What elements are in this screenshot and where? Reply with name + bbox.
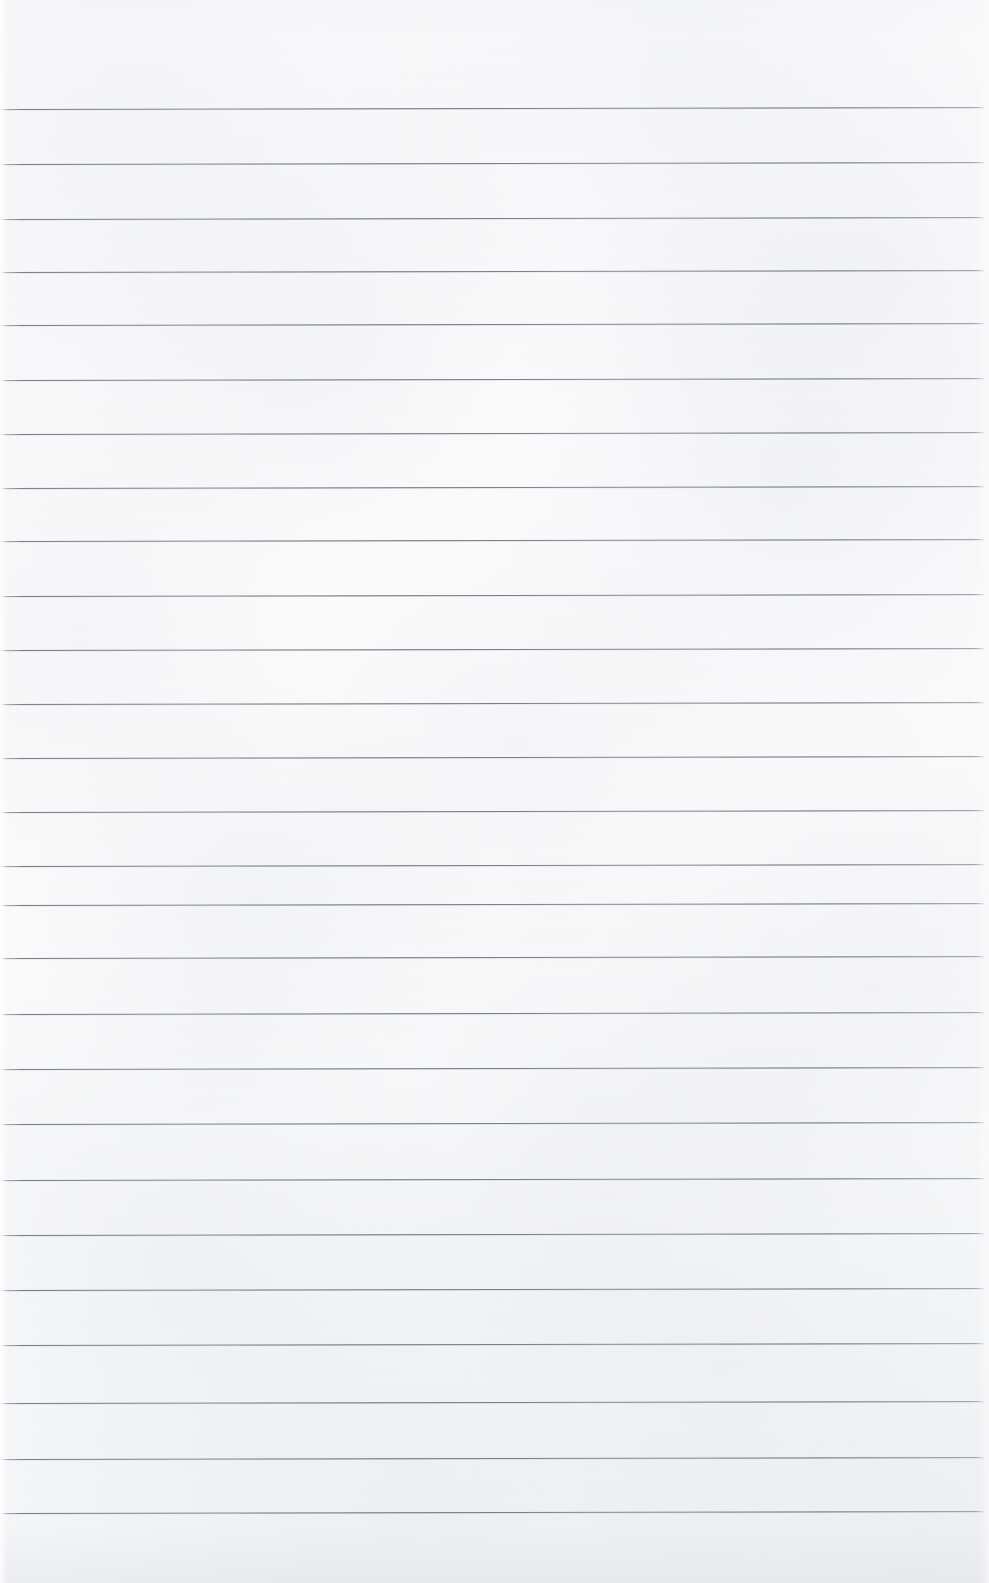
scanned-notebook-page bbox=[0, 0, 989, 1583]
ruled-line-left-stub-27 bbox=[0, 1513, 5, 1514]
page-content-area[interactable] bbox=[4, 109, 984, 1513]
